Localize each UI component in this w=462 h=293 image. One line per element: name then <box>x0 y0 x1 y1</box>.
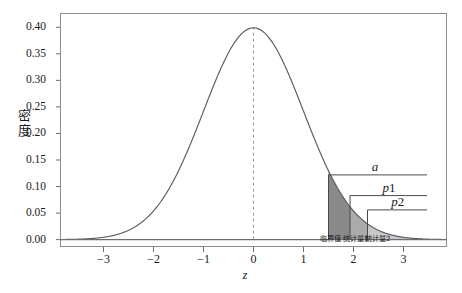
x-tick-label: −3 <box>89 252 119 267</box>
critical-value-label: 临界值 <box>320 235 341 243</box>
y-tick-label: 0.40 <box>0 21 46 33</box>
x-tick-label: −2 <box>139 252 169 267</box>
y-tick-label: 0.00 <box>0 234 46 246</box>
y-tick-label: 0.25 <box>0 101 46 113</box>
y-axis-ticks <box>56 27 60 239</box>
statistic2-label: 统计量2 <box>365 235 391 243</box>
y-tick-label: 0.05 <box>0 207 46 219</box>
plot-svg <box>0 0 462 293</box>
bracket-label-p2: p2 <box>391 194 404 210</box>
x-tick-label: 0 <box>239 252 269 267</box>
x-tick-label: 1 <box>289 252 319 267</box>
chart-canvas: 密 度 z 0.000.050.100.150.200.250.300.350.… <box>0 0 462 293</box>
x-tick-label: 3 <box>389 252 419 267</box>
y-tick-label: 0.30 <box>0 74 46 86</box>
x-axis-title: z <box>232 268 258 283</box>
y-tick-label: 0.10 <box>0 181 46 193</box>
y-tick-label: 0.15 <box>0 154 46 166</box>
y-tick-label: 0.35 <box>0 48 46 60</box>
x-tick-label: −1 <box>189 252 219 267</box>
y-tick-label: 0.20 <box>0 127 46 139</box>
x-tick-label: 2 <box>339 252 369 267</box>
bracket-label-a: a <box>372 159 379 175</box>
